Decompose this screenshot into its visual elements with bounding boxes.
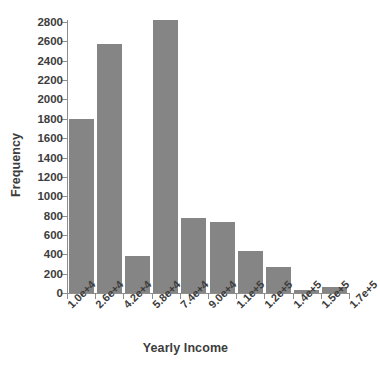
x-axis-tick-label: 1.4e+5 [291, 278, 323, 310]
y-axis-tick-label: 1200 [37, 171, 63, 183]
y-axis-title: Frequency [8, 95, 24, 235]
bar [69, 119, 94, 293]
y-axis-tick-label: 2200 [37, 74, 63, 86]
y-axis-tick-label: 1800 [37, 113, 63, 125]
y-axis-tick-label: 1000 [37, 190, 63, 202]
y-axis-tick-label: 800 [44, 210, 63, 222]
y-axis-tick-label: 1600 [37, 132, 63, 144]
plot-area: 0200400600800100012001400160018002000220… [67, 22, 349, 293]
x-axis-tick-label: 1.7e+5 [347, 278, 379, 310]
y-axis-tick-label: 400 [44, 248, 63, 260]
y-axis-tick-label: 200 [44, 268, 63, 280]
y-axis-tick-label: 600 [44, 229, 63, 241]
y-axis-tick-label: 2000 [37, 93, 63, 105]
bar [153, 20, 178, 293]
y-axis-tick-label: 2800 [37, 16, 63, 28]
y-axis-tick-label: 1400 [37, 152, 63, 164]
y-axis-tick-label: 2400 [37, 55, 63, 67]
y-axis-title-text: Frequency [9, 133, 23, 197]
y-axis-tick-label: 2600 [37, 35, 63, 47]
bar [97, 44, 122, 293]
x-axis-title: Yearly Income [0, 341, 371, 355]
y-axis-tick-label: 0 [57, 287, 63, 299]
x-axis-tick-label: 1.5e+5 [319, 278, 351, 310]
